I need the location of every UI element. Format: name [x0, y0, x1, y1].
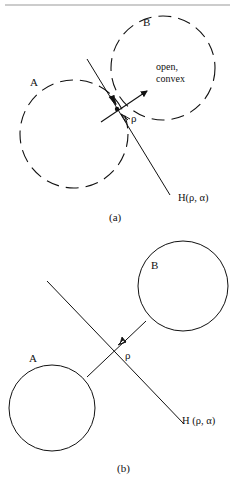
hyperplane-label: H (ρ, α) — [182, 415, 216, 427]
set-b-label: B — [143, 16, 150, 28]
normal-vector-rho — [101, 91, 147, 122]
set-a-label: A — [30, 76, 38, 88]
panel-b: B A ρ H (ρ, α) (b) — [9, 241, 228, 475]
set-a-label: A — [29, 352, 37, 364]
panel-a-caption: (a) — [109, 211, 122, 224]
connecting-segment — [87, 321, 146, 377]
panel-a: B A open, convex ρ H(ρ, α) (a) — [20, 16, 215, 224]
hyperplane-arrow-up-icon — [121, 114, 130, 122]
rho-label: ρ — [125, 349, 131, 361]
set-b-solid-circle — [138, 241, 228, 331]
normal-arrow-icon — [118, 337, 126, 345]
hyperplane-arrow-down-icon — [109, 95, 116, 105]
open-convex-note-line1: open, — [156, 61, 178, 72]
hyperplane-line — [47, 281, 184, 424]
panel-b-caption: (b) — [117, 462, 130, 475]
set-b-label: B — [151, 259, 158, 271]
rho-label: ρ — [131, 112, 137, 124]
separating-hyperplane-figure: B A open, convex ρ H(ρ, α) (a) B A ρ H (… — [0, 0, 238, 489]
open-convex-note-line2: convex — [156, 73, 185, 84]
hyperplane-label: H(ρ, α) — [178, 192, 209, 204]
set-a-solid-circle — [9, 365, 95, 451]
